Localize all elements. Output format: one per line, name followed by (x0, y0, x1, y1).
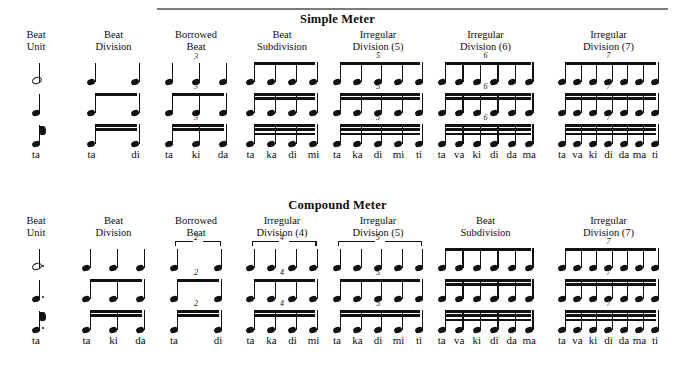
rhythm-rows: 555 (327, 239, 429, 332)
note-stem (658, 248, 659, 268)
tuplet-bracket (175, 241, 221, 246)
column-header: IrregularDivision (7) (542, 28, 675, 53)
stave: 6 (429, 115, 542, 146)
note-stem (139, 124, 140, 144)
syllable-row: takadimi (237, 332, 327, 350)
beam (340, 124, 420, 127)
note-group (87, 300, 141, 330)
note-stem (117, 279, 118, 299)
note-group (36, 52, 37, 82)
column-header-line2: Subdivision (257, 41, 307, 52)
syllable: ki (585, 334, 601, 346)
note-stem (90, 310, 91, 330)
rhythm-row (0, 115, 72, 146)
note-stem (515, 62, 516, 82)
note-stem (340, 62, 341, 82)
column-header: BeatSubdivision (237, 28, 327, 53)
note-stem (658, 62, 659, 82)
note-stem (361, 62, 362, 82)
rhythm-row: 5 (327, 239, 429, 270)
stave: 7 (542, 239, 675, 270)
syllable: ta (32, 148, 40, 160)
note-group: 7 (562, 114, 655, 144)
note-stem (117, 249, 118, 268)
rhythm-rows (237, 53, 327, 146)
stave: 5 (327, 239, 429, 270)
syllable: da (210, 148, 237, 160)
note-stem (275, 310, 276, 330)
stave: 7 (542, 115, 675, 146)
stave: 2 (155, 270, 237, 301)
syllable: ta (327, 148, 348, 160)
beam (340, 279, 420, 282)
syllable: di (368, 334, 389, 346)
stave: 4 (237, 301, 327, 332)
note-group: 7 (562, 238, 655, 268)
rhythm-row: 5 (327, 53, 429, 84)
note-stem (658, 279, 659, 299)
bracket-right-tick (421, 241, 422, 246)
note-group: 4 (251, 269, 314, 299)
rhythm-row: 4 (237, 270, 327, 301)
beam (445, 283, 531, 285)
beam (254, 97, 315, 99)
syllable-row: ta (0, 332, 72, 350)
beam (95, 128, 137, 130)
note-flag (40, 312, 46, 321)
note-stem (612, 93, 613, 113)
rhythm-row: 3 (155, 84, 237, 115)
syllable-row: tadi (72, 146, 155, 164)
beam (254, 124, 315, 127)
beam (565, 133, 656, 135)
beam (445, 310, 531, 313)
stave: 7 (542, 270, 675, 301)
note-stem (497, 248, 498, 268)
note-stem (177, 310, 178, 330)
note-stem (95, 124, 96, 144)
stave: 7 (542, 301, 675, 332)
syllable: ta (327, 334, 348, 346)
note-stem (226, 63, 227, 82)
tuplet-number: 7 (562, 300, 655, 308)
note-group (87, 269, 141, 299)
rhythm-row: 5 (327, 270, 429, 301)
syllable-row: takadimiti (327, 332, 429, 350)
syllable: da (127, 334, 154, 346)
rhythm-row (72, 301, 155, 332)
syllable: ta (240, 148, 261, 160)
stave: 7 (542, 53, 675, 84)
syllable: ta (156, 148, 183, 160)
note-stem (532, 279, 533, 299)
column-header: IrregularDivision (5) (327, 28, 429, 53)
note-group (36, 114, 37, 144)
tuplet-number: 6 (442, 83, 530, 91)
note-group: 2 (174, 269, 218, 299)
stave (72, 239, 155, 270)
rhythm-row (0, 301, 72, 332)
stave (0, 239, 72, 270)
note-stem (340, 249, 341, 268)
note-stem (422, 93, 423, 113)
beam (565, 283, 656, 285)
note-stem (90, 249, 91, 268)
note-group: 5 (337, 83, 419, 113)
note-stem (144, 279, 145, 299)
rhythm-column: BeatDivisiontadi (72, 28, 155, 188)
bracket-hook-right (385, 241, 422, 242)
stave: 4 (237, 270, 327, 301)
rhythm-row: 7 (542, 301, 675, 332)
column-header: BorrowedBeat (155, 28, 237, 53)
beam (565, 314, 656, 316)
tuplet-number: 6 (442, 52, 530, 60)
rhythm-rows (72, 239, 155, 332)
syllable-list: takida (156, 148, 237, 160)
stave: 5 (327, 270, 429, 301)
note-group: 3 (169, 83, 223, 113)
note-stem (462, 248, 463, 268)
syllable: ma (521, 334, 539, 346)
tuplet-bracket (338, 241, 422, 246)
note-stem (643, 93, 644, 113)
column-header: IrregularDivision (6) (429, 28, 542, 53)
column-header-line1: Borrowed (175, 29, 217, 40)
rhythm-row (72, 239, 155, 270)
